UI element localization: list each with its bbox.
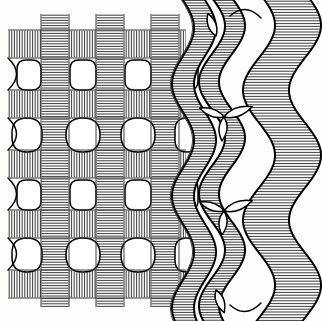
mesh-opening-fill xyxy=(66,238,100,272)
mesh-opening-fill xyxy=(17,60,41,90)
mesh-opening-fill xyxy=(70,180,96,210)
illustration-root: Lace Ground and Border Pattern openwork … xyxy=(0,0,322,321)
mesh-opening-fill xyxy=(70,60,96,90)
mesh-opening-fill xyxy=(125,60,151,90)
mesh-opening-fill xyxy=(125,180,151,210)
mesh-opening-fill xyxy=(66,118,100,152)
lace-pattern-illustration xyxy=(0,0,322,321)
mesh-ground-region xyxy=(8,14,199,307)
mesh-opening-fill xyxy=(17,180,41,210)
mesh-opening-fill xyxy=(121,118,155,152)
mesh-opening-fill xyxy=(121,238,155,272)
